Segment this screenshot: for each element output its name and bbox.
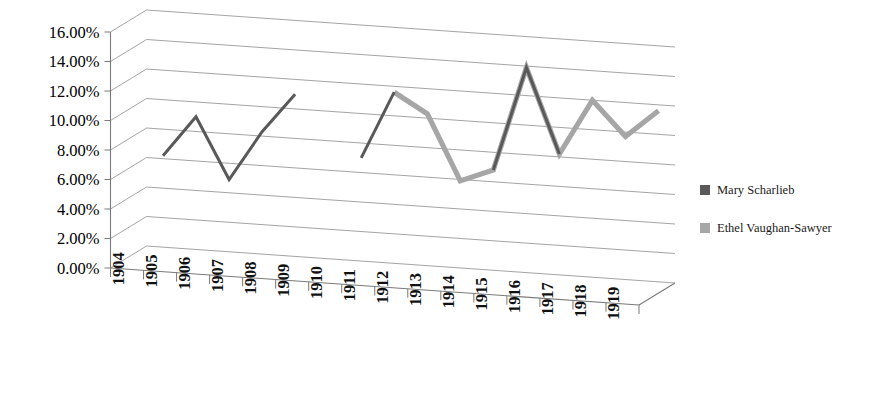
chart-container: 0.00%2.00%4.00%6.00%8.00%10.00%12.00%14.… xyxy=(0,0,880,402)
y-axis-tick-label: 14.00% xyxy=(49,52,100,71)
line-chart-3d: 0.00%2.00%4.00%6.00%8.00%10.00%12.00%14.… xyxy=(0,0,880,402)
x-axis-tick-label: 1919 xyxy=(604,287,623,320)
legend-label: Ethel Vaughan-Sawyer xyxy=(717,221,833,235)
y-axis-tick-label: 0.00% xyxy=(57,259,100,278)
x-axis-tick-label: 1916 xyxy=(505,280,524,313)
y-axis-tick-label: 8.00% xyxy=(57,141,100,160)
gridline xyxy=(111,187,676,224)
x-axis-tick-label: 1915 xyxy=(472,278,491,311)
x-axis-tick-label: 1909 xyxy=(274,264,293,297)
x-axis-tick-label: 1910 xyxy=(307,266,326,299)
legend-label: Mary Scharlieb xyxy=(717,183,794,197)
x-axis-tick-label: 1912 xyxy=(373,271,392,304)
x-axis-tick-label: 1913 xyxy=(406,273,425,306)
y-axis-tick-label: 2.00% xyxy=(57,229,100,248)
x-axis-tick-label: 1908 xyxy=(241,261,260,294)
y-axis-tick-label: 6.00% xyxy=(57,170,100,189)
x-axis-tick-label: 1918 xyxy=(571,285,590,318)
series-line xyxy=(361,92,394,158)
x-axis-tick-label: 1911 xyxy=(340,269,359,301)
y-axis-tick-labels: 0.00%2.00%4.00%6.00%8.00%10.00%12.00%14.… xyxy=(49,23,111,278)
y-axis-tick-label: 4.00% xyxy=(57,200,100,219)
x-axis-tick-label: 1905 xyxy=(142,254,161,287)
floor-right-edge xyxy=(639,283,675,305)
gridlines xyxy=(111,10,676,283)
axis-lines xyxy=(111,32,676,305)
chart-legend: Mary ScharliebEthel Vaughan-Sawyer xyxy=(700,183,833,235)
gridline xyxy=(111,246,676,283)
x-axis-tick-label: 1917 xyxy=(538,282,557,315)
y-axis-tick-label: 10.00% xyxy=(49,111,100,130)
gridline xyxy=(111,10,676,47)
legend-swatch xyxy=(700,185,710,195)
x-axis-tick-label: 1914 xyxy=(439,275,458,308)
gridline xyxy=(111,217,676,254)
gridline xyxy=(111,40,676,77)
y-axis-tick-label: 16.00% xyxy=(49,23,100,42)
x-axis-tick-label: 1906 xyxy=(175,257,194,290)
x-axis-tick-label: 1904 xyxy=(109,252,128,285)
gridline xyxy=(111,128,676,165)
legend-swatch xyxy=(700,223,710,233)
x-axis-tick-label: 1907 xyxy=(208,259,227,292)
series-line xyxy=(394,68,658,181)
gridline xyxy=(111,158,676,195)
y-axis-tick-label: 12.00% xyxy=(49,82,100,101)
